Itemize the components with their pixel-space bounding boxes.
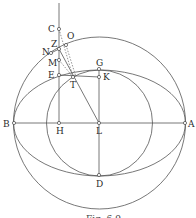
- point-D: [97, 173, 100, 176]
- label-H: H: [56, 126, 64, 136]
- line-EK: [59, 75, 99, 77]
- label-E: E: [48, 70, 55, 80]
- label-O: O: [67, 31, 74, 41]
- point-O: [64, 43, 67, 46]
- label-C: C: [48, 24, 55, 34]
- point-K: [97, 75, 100, 78]
- label-G: G: [96, 58, 103, 68]
- point-N: [49, 51, 52, 54]
- label-A: A: [187, 119, 195, 129]
- point-M: [57, 58, 60, 61]
- label-Z: Z: [51, 39, 57, 49]
- figure-caption: Fig. 6.9: [86, 214, 121, 218]
- geometry-diagram: A B C D E G H K L M N O T Z Fig. 6.9: [0, 0, 196, 218]
- point-L: [97, 121, 100, 124]
- point-H: [57, 121, 60, 124]
- label-T: T: [70, 80, 76, 90]
- label-K: K: [103, 72, 110, 82]
- label-B: B: [3, 119, 10, 129]
- line-ZL: [59, 49, 99, 123]
- label-N: N: [42, 47, 50, 57]
- label-L: L: [96, 126, 102, 136]
- label-D: D: [96, 179, 103, 189]
- point-C: [57, 27, 60, 30]
- point-B: [12, 121, 15, 124]
- points: [12, 27, 186, 176]
- point-T: [71, 75, 74, 78]
- point-A: [183, 121, 186, 124]
- point-Z: [57, 47, 60, 50]
- label-M: M: [48, 58, 57, 68]
- dashed-OT: [66, 45, 76, 77]
- point-E: [57, 73, 60, 76]
